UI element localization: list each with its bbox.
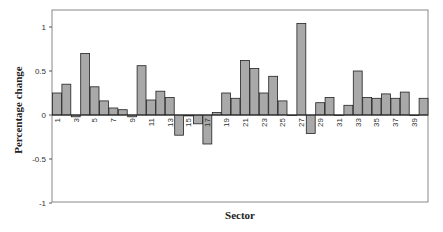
x-tick-label: 19 — [222, 117, 231, 126]
y-tick-label: 0.5 — [35, 67, 47, 76]
bar-sector-29 — [316, 103, 325, 115]
x-tick-label: 31 — [335, 117, 344, 126]
bar-sector-14 — [175, 115, 184, 135]
x-axis-label: Sector — [225, 209, 255, 221]
y-tick-label: -0.5 — [32, 155, 46, 164]
x-tick-label: 11 — [147, 117, 156, 126]
bar-sector-12 — [156, 91, 165, 115]
bar-sector-38 — [400, 92, 409, 115]
y-tick-label: 0 — [42, 111, 47, 120]
bar-sector-32 — [344, 105, 353, 115]
bar-sector-4 — [81, 53, 90, 115]
y-axis-ticks: 10.50-0.5-1 — [32, 23, 52, 208]
x-tick-label: 21 — [241, 117, 250, 126]
x-tick-label: 27 — [297, 117, 306, 126]
x-tick-label: 1 — [53, 117, 62, 122]
bar-sector-23 — [259, 93, 268, 115]
bar-sector-21 — [241, 60, 250, 115]
x-tick-label: 13 — [166, 117, 175, 126]
x-tick-label: 37 — [391, 117, 400, 126]
bar-sector-40 — [419, 98, 428, 115]
bar-sector-16 — [194, 115, 203, 124]
x-tick-label: 5 — [90, 117, 99, 122]
bar-sector-7 — [109, 108, 118, 115]
bar-sector-37 — [391, 98, 400, 115]
bar-sector-11 — [147, 100, 156, 115]
bar-sector-24 — [269, 76, 278, 115]
bar-sector-25 — [278, 101, 287, 115]
bar-sector-20 — [231, 98, 240, 115]
y-tick-label: 1 — [42, 23, 47, 32]
bar-sector-28 — [306, 115, 315, 134]
bar-sector-10 — [137, 66, 146, 115]
bar-sector-34 — [363, 97, 372, 115]
x-tick-label: 9 — [128, 117, 137, 122]
x-tick-label: 25 — [278, 117, 287, 126]
bar-sector-22 — [250, 68, 259, 115]
bar-sector-5 — [90, 87, 99, 115]
bar-sector-6 — [100, 101, 109, 115]
bar-sector-27 — [297, 24, 306, 116]
bar-sector-30 — [325, 97, 334, 115]
x-tick-label: 39 — [410, 117, 419, 126]
x-tick-label: 7 — [109, 117, 118, 122]
bar-sector-33 — [353, 71, 362, 115]
bar-sector-1 — [53, 93, 62, 115]
bar-sector-2 — [62, 84, 71, 115]
bar-sector-19 — [222, 93, 231, 115]
x-tick-label: 35 — [372, 117, 381, 126]
x-tick-label: 17 — [203, 117, 212, 126]
y-axis-label: Percentage change — [12, 66, 24, 154]
x-tick-label: 29 — [316, 117, 325, 126]
bar-sector-35 — [372, 98, 381, 115]
bar-chart: 10.50-0.5-1 1357911131517192123252729313… — [0, 0, 443, 232]
bar-sector-13 — [165, 97, 174, 115]
x-tick-label: 23 — [260, 117, 269, 126]
x-tick-label: 33 — [354, 117, 363, 126]
x-tick-label: 3 — [72, 117, 81, 122]
y-tick-label: -1 — [39, 199, 47, 208]
bar-sector-8 — [118, 110, 127, 115]
bar-sector-36 — [382, 94, 391, 115]
x-tick-label: 15 — [184, 117, 193, 126]
